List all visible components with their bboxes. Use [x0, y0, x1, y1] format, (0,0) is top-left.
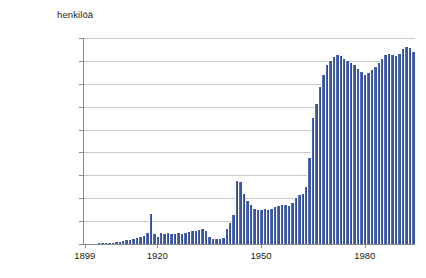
x-axis-tick-label: 1950: [251, 250, 272, 261]
x-axis-tick-label: 1920: [147, 250, 168, 261]
x-axis-tick-label: 1980: [354, 250, 375, 261]
x-axis-tick: [85, 244, 86, 248]
x-axis-tick-label: 1899: [74, 250, 95, 261]
x-axis-tick: [261, 244, 262, 248]
x-axis-tick: [157, 244, 158, 248]
x-axis-tick: [365, 244, 366, 248]
x-axis-labels: 1899192019501980: [0, 0, 426, 278]
bar-chart: henkilöä 180 000160 000140 000120 000100…: [0, 0, 426, 278]
